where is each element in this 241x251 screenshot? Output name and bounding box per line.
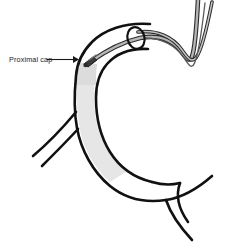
vascular-occlusion-figure: Proximal cap — [0, 0, 241, 251]
proximal-cap-label: Proximal cap — [9, 55, 52, 64]
diagram-canvas: Proximal cap — [0, 0, 241, 251]
